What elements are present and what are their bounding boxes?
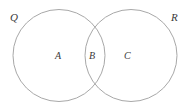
region-label-b: B — [89, 51, 95, 61]
set-circle-r — [85, 10, 177, 102]
venn-diagram-canvas — [0, 0, 191, 111]
set-label-q: Q — [10, 12, 18, 23]
venn-diagram: Q R A B C — [0, 0, 191, 111]
region-label-c: C — [124, 51, 131, 61]
set-label-r: R — [171, 12, 178, 23]
region-label-a: A — [55, 51, 61, 61]
